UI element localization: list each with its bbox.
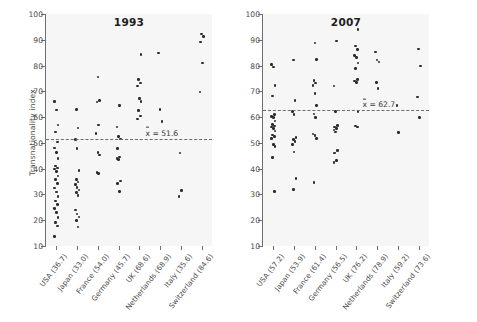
data-point [270,137,273,140]
data-point [333,161,336,164]
data-point [418,116,421,119]
y-tick-label: 30 [33,190,43,199]
x-tick-mark [181,246,182,250]
data-point [139,115,142,118]
data-point [54,221,57,224]
data-point [116,147,119,150]
data-point [315,58,318,61]
data-point [56,182,59,185]
y-tick-label: 10 [33,242,43,251]
data-point [75,219,78,222]
plot-background-1993 [46,14,212,246]
y-tick-label: 20 [250,216,260,225]
mean-symbol: x [146,128,151,137]
data-point [335,159,338,162]
data-point [98,99,101,102]
data-point [137,78,140,81]
data-point [137,109,140,112]
x-tick-mark [356,246,357,250]
data-point [314,116,317,119]
x-tick-mark [419,246,420,250]
y-tick-label: 40 [250,164,260,173]
data-point [354,67,357,70]
data-point [397,131,400,134]
mean-line [263,110,429,111]
data-point [55,191,58,194]
x-tick-mark [202,246,203,250]
data-point [56,203,59,206]
y-tick-label: 10 [250,242,260,251]
y-axis-title: Transnationality index [28,53,37,213]
data-point [161,120,164,123]
data-point [53,235,56,238]
data-point [54,200,57,203]
data-point [375,81,378,84]
panel-title-1993: 1993 [46,16,212,28]
data-point [355,56,358,59]
data-point [295,177,298,180]
data-point [55,151,58,154]
data-point [354,45,357,48]
data-point [377,87,380,90]
y-tick-label: 60 [33,113,43,122]
data-point [271,95,274,98]
figure-root: Transnationality index 1993 102030405060… [0,0,477,322]
data-point [119,180,122,183]
y-tick-label: 20 [33,216,43,225]
x-tick-mark [160,246,161,250]
y-tick-label: 80 [250,61,260,70]
y-tick-label: 70 [250,87,260,96]
data-point [272,116,275,119]
data-point [314,92,317,95]
data-point [53,207,56,210]
y-tick-label: 90 [33,35,43,44]
plot-background-2007 [263,14,429,246]
mean-value-text: = 62.7 [367,100,395,109]
data-point [315,137,318,140]
y-axis-spine-2007 [262,14,263,246]
y-tick-label: 100 [246,10,261,19]
mean-symbol: x [363,100,368,109]
data-point [292,59,295,62]
mean-label: x = 51.6 [146,128,179,137]
data-point [139,82,142,85]
data-point [116,182,119,185]
panel-1993: 1993 102030405060708090100 USA (36.7)Jap… [46,14,212,246]
data-point [199,41,202,44]
x-tick-mark [119,246,120,250]
data-point [117,158,120,161]
data-point [97,172,100,175]
y-tick-label: 70 [33,87,43,96]
x-tick-mark [77,246,78,250]
data-point [53,100,56,103]
data-point [75,191,78,194]
y-tick-label: 50 [250,138,260,147]
data-point [292,188,295,191]
data-point [291,143,294,146]
data-point [396,104,399,107]
data-point [202,35,205,38]
y-tick-label: 100 [29,10,44,19]
panel-2007: 2007 102030405060708090100 USA (57.2)Jap… [263,14,429,246]
data-point [56,225,59,228]
data-point [55,109,58,112]
data-point [201,62,204,65]
y-tick-label: 40 [33,164,43,173]
y-tick-label: 60 [250,113,260,122]
data-point [180,189,183,192]
y-tick-label: 80 [33,61,43,70]
x-tick-mark [315,246,316,250]
mean-label: x = 62.7 [363,100,396,109]
x-tick-mark [294,246,295,250]
x-tick-mark [377,246,378,250]
x-tick-mark [273,246,274,250]
y-axis-spine-1993 [45,14,46,246]
data-point [54,131,57,134]
data-point [55,170,58,173]
panel-title-2007: 2007 [263,16,429,28]
data-point [356,126,359,129]
data-point [55,211,58,214]
x-tick-mark [98,246,99,250]
x-tick-mark [56,246,57,250]
data-point [417,48,420,51]
